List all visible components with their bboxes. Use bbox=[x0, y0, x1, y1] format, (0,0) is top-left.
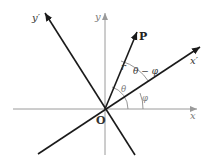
rotation-diagram: y′ y P x′ r θ − φ θ φ x O bbox=[0, 0, 209, 165]
y-prime-label: y′ bbox=[31, 12, 41, 23]
x-prime-axis bbox=[38, 47, 200, 154]
x-prime-label: x′ bbox=[190, 55, 199, 66]
point-p-label: P bbox=[139, 30, 147, 43]
theta-minus-phi-label: θ − φ bbox=[133, 66, 159, 76]
x-axis-label: x bbox=[190, 110, 196, 121]
origin-label: O bbox=[96, 114, 106, 127]
y-axis-label: y bbox=[94, 11, 101, 22]
phi-label: φ bbox=[142, 93, 148, 103]
theta-label: θ bbox=[121, 84, 126, 94]
